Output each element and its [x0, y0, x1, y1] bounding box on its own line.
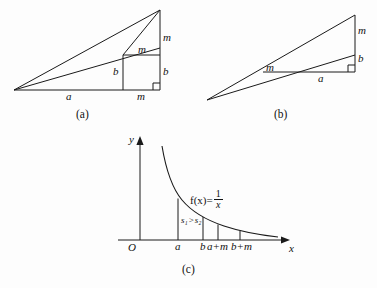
panel-a-right-upper-label: m	[163, 32, 171, 43]
chart-function-label: f(x)=1x	[190, 189, 223, 210]
chart-tick-label-b-plus-m: b+m	[231, 241, 252, 252]
panel-a-inner-height-label: b	[113, 66, 119, 77]
chart-area-s1-label: s₁	[181, 215, 188, 225]
chart-area-comparison-label: s₁>s₂	[181, 216, 201, 225]
chart-function-fraction: 1x	[214, 189, 223, 210]
chart-origin-label: O	[128, 242, 136, 253]
panel-a-base-label: a	[66, 91, 72, 102]
panel-a-slant-label: m	[138, 44, 146, 55]
chart-y-axis-label: y	[129, 134, 134, 145]
panel-b-right-lower-label: b	[358, 53, 364, 64]
panel-a-inner-base-label: m	[137, 91, 145, 102]
panel-c-caption: (c)	[182, 263, 195, 275]
panel-a-right-lower-label: b	[163, 66, 169, 77]
chart-tick-label-a-plus-m: a+m	[207, 241, 228, 252]
chart-tick-label-a: a	[175, 241, 181, 252]
panel-a-caption: (a)	[76, 108, 89, 120]
panel-a-diagram	[0, 0, 190, 105]
panel-b-base-label: a	[318, 73, 324, 84]
panel-b-caption: (b)	[274, 108, 287, 120]
chart-area-s2-label: s₂	[195, 215, 202, 225]
chart-tick-label-b: b	[200, 241, 206, 252]
chart-x-axis-label: x	[289, 243, 294, 254]
panel-b-diagram	[185, 0, 377, 105]
panel-b-right-upper-label: m	[358, 25, 366, 36]
chart-function-expression: f(x)=	[190, 194, 213, 206]
panel-b-vertex-label: m	[266, 62, 274, 73]
chart-compare-symbol: >	[188, 215, 195, 225]
chart-fraction-denominator: x	[214, 200, 223, 210]
math-figure-panel-group: a b m b m m (a) m a b m (b)	[0, 0, 377, 288]
